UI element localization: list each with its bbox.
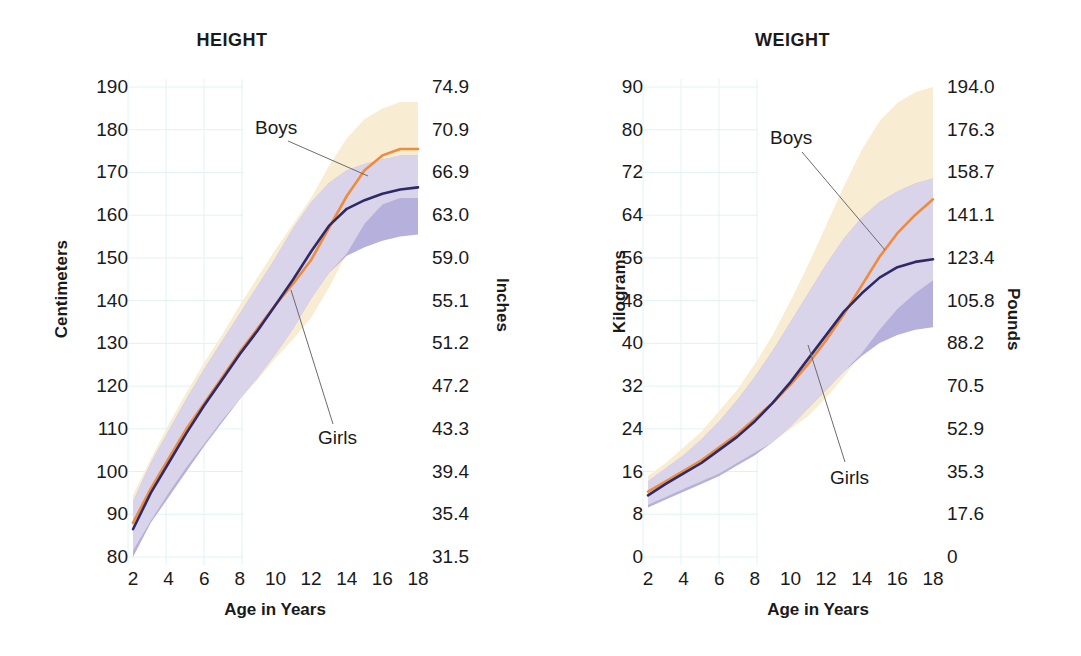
height-boys-annotation: Boys [255, 118, 297, 137]
weight-y-tick-right: 176.3 [947, 120, 1027, 139]
weight-x-tick: 12 [806, 569, 846, 588]
height-y-tick-left: 90 [58, 504, 128, 523]
height-y-tick-left: 150 [58, 248, 128, 267]
height-y-tick-left: 130 [58, 333, 128, 352]
height-x-tick: 6 [184, 569, 224, 588]
weight-y-tick-left: 24 [573, 419, 643, 438]
weight-chart: WEIGHT Kilograms Pounds Age in Years Boy… [540, 0, 1081, 656]
weight-y-tick-right: 123.4 [947, 248, 1027, 267]
weight-y-tick-right: 70.5 [947, 376, 1027, 395]
height-y-tick-left: 80 [58, 547, 128, 566]
height-y-tick-left: 170 [58, 162, 128, 181]
weight-x-tick: 4 [664, 569, 704, 588]
height-y-tick-right: 59.0 [432, 248, 512, 267]
weight-y-tick-right: 105.8 [947, 291, 1027, 310]
weight-y-tick-right: 52.9 [947, 419, 1027, 438]
height-y-tick-left: 190 [58, 77, 128, 96]
weight-x-tick: 16 [877, 569, 917, 588]
height-y-tick-left: 110 [58, 419, 128, 438]
height-chart: HEIGHT Centimeters Inches Age in Years B… [0, 0, 540, 656]
height-x-tick: 10 [256, 569, 296, 588]
height-y-tick-right: 70.9 [432, 120, 512, 139]
height-y-tick-left: 140 [58, 291, 128, 310]
height-x-tick: 4 [149, 569, 189, 588]
weight-y-tick-left: 90 [573, 77, 643, 96]
weight-y-tick-right: 194.0 [947, 77, 1027, 96]
weight-y-tick-right: 0 [947, 547, 1027, 566]
weight-y-tick-left: 48 [573, 291, 643, 310]
weight-x-tick: 8 [735, 569, 775, 588]
height-y-tick-right: 39.4 [432, 462, 512, 481]
overlap-band [648, 178, 933, 504]
height-x-tick: 2 [113, 569, 153, 588]
weight-y-tick-left: 32 [573, 376, 643, 395]
weight-y-tick-right: 35.3 [947, 462, 1027, 481]
weight-y-tick-right: 88.2 [947, 333, 1027, 352]
weight-x-tick: 10 [771, 569, 811, 588]
height-y-tick-right: 63.0 [432, 205, 512, 224]
height-y-tick-left: 120 [58, 376, 128, 395]
height-y-tick-right: 35.4 [432, 504, 512, 523]
height-y-tick-right: 43.3 [432, 419, 512, 438]
weight-girls-annotation: Girls [830, 468, 869, 487]
weight-y-tick-left: 72 [573, 162, 643, 181]
height-x-tick: 8 [220, 569, 260, 588]
height-y-tick-right: 31.5 [432, 547, 512, 566]
weight-y-tick-left: 80 [573, 120, 643, 139]
weight-x-tick: 6 [699, 569, 739, 588]
weight-boys-annotation: Boys [770, 128, 812, 147]
height-x-tick: 16 [362, 569, 402, 588]
weight-y-tick-left: 64 [573, 205, 643, 224]
weight-y-tick-right: 17.6 [947, 504, 1027, 523]
weight-y-tick-left: 8 [573, 504, 643, 523]
height-y-tick-right: 74.9 [432, 77, 512, 96]
height-x-tick: 12 [291, 569, 331, 588]
weight-x-tick: 14 [842, 569, 882, 588]
weight-y-tick-right: 158.7 [947, 162, 1027, 181]
height-y-tick-right: 66.9 [432, 162, 512, 181]
height-x-tick: 14 [327, 569, 367, 588]
height-y-tick-left: 180 [58, 120, 128, 139]
height-y-tick-left: 160 [58, 205, 128, 224]
height-girls-annotation: Girls [318, 428, 357, 447]
weight-y-tick-left: 40 [573, 333, 643, 352]
height-x-tick: 18 [398, 569, 438, 588]
weight-x-tick: 18 [913, 569, 953, 588]
weight-y-tick-left: 16 [573, 462, 643, 481]
height-y-tick-right: 55.1 [432, 291, 512, 310]
weight-y-tick-left: 0 [573, 547, 643, 566]
height-x-axis-label: Age in Years [125, 600, 425, 620]
weight-y-tick-right: 141.1 [947, 205, 1027, 224]
height-y-tick-right: 47.2 [432, 376, 512, 395]
height-y-tick-left: 100 [58, 462, 128, 481]
weight-y-tick-left: 56 [573, 248, 643, 267]
weight-x-tick: 2 [628, 569, 668, 588]
weight-x-axis-label: Age in Years [668, 600, 968, 620]
height-y-tick-right: 51.2 [432, 333, 512, 352]
